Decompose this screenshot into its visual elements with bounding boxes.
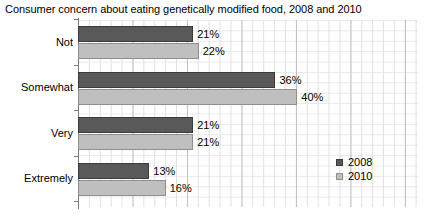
axis-tick [74, 110, 79, 111]
axis-tick [74, 65, 79, 66]
bar-row: 40% [78, 89, 418, 105]
bar-value-label: 21% [197, 136, 219, 148]
chart-legend: 2008 2010 [336, 155, 372, 183]
axis-tick [74, 156, 79, 157]
axis-tick [74, 201, 79, 202]
bar-value-label: 40% [301, 91, 323, 103]
chart-title: Consumer concern about eating geneticall… [5, 3, 362, 15]
bar-row: 22% [78, 43, 418, 59]
legend-item-2010: 2010 [336, 169, 372, 183]
category-label: Extremely [0, 172, 73, 184]
category-label: Not [0, 36, 73, 48]
legend-item-2008: 2008 [336, 155, 372, 169]
legend-swatch-2010 [336, 173, 343, 180]
bar-value-label: 13% [153, 165, 175, 177]
bar-2008-extremely [78, 163, 149, 179]
bar-value-label: 22% [203, 45, 225, 57]
bar-2008-very [78, 117, 193, 133]
bar-row: 21% [78, 117, 418, 133]
category-label: Somewhat [0, 81, 73, 93]
bar-2010-very [78, 134, 193, 150]
bar-2010-extremely [78, 180, 166, 196]
legend-label-2010: 2010 [348, 170, 372, 182]
bar-chart: Consumer concern about eating geneticall… [0, 0, 426, 221]
bar-value-label: 21% [197, 119, 219, 131]
bar-value-label: 21% [197, 28, 219, 40]
bar-2008-somewhat [78, 72, 275, 88]
bar-2008-not [78, 26, 193, 42]
bar-row: 36% [78, 72, 418, 88]
bar-value-label: 16% [170, 182, 192, 194]
axis-tick [74, 19, 79, 20]
legend-swatch-2008 [336, 159, 343, 166]
legend-label-2008: 2008 [348, 156, 372, 168]
bar-row: 21% [78, 26, 418, 42]
bar-2010-not [78, 43, 199, 59]
bar-2010-somewhat [78, 89, 297, 105]
bar-row: 21% [78, 134, 418, 150]
bar-value-label: 36% [279, 74, 301, 86]
category-label: Very [0, 127, 73, 139]
